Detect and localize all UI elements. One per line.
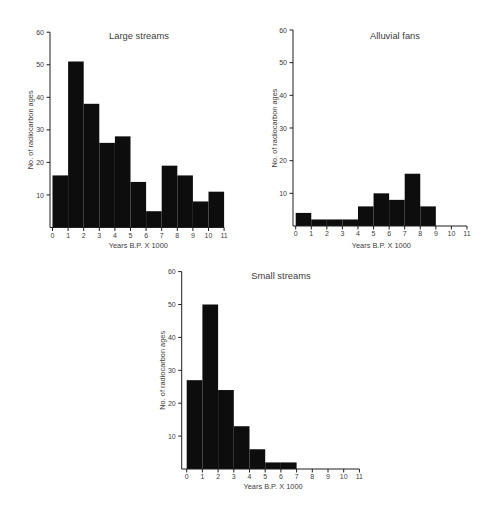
- histogram-bar: [405, 174, 421, 226]
- y-tick-label: 60: [168, 268, 176, 275]
- x-tick-label: 8: [310, 473, 314, 480]
- histogram-bar: [374, 193, 390, 226]
- histogram-bar: [265, 462, 281, 469]
- x-tick-label: 8: [175, 232, 179, 239]
- y-tick-label: 10: [36, 192, 44, 199]
- y-tick-label: 30: [279, 125, 287, 132]
- y-tick-label: 20: [279, 157, 287, 164]
- x-tick-label: 7: [403, 230, 407, 237]
- histogram-bar: [342, 219, 358, 226]
- y-axis-label: No. of radiocarbon ages: [158, 331, 167, 410]
- histogram-bar: [68, 62, 84, 228]
- x-tick-label: 10: [340, 473, 348, 480]
- chart-title: Alluvial fans: [370, 30, 420, 41]
- x-tick-label: 3: [340, 230, 344, 237]
- histogram-bar: [131, 182, 147, 228]
- x-tick-label: 4: [113, 232, 117, 239]
- x-tick-label: 2: [82, 232, 86, 239]
- y-tick-label: 60: [279, 27, 287, 34]
- histogram-bar: [162, 166, 178, 228]
- y-axis-label: No. of radiocarbon ages: [270, 88, 279, 167]
- chart-title: Small streams: [251, 270, 311, 281]
- histogram-bar: [187, 380, 203, 469]
- alluvial-fans-chart: 10203040506001234567891011Alluvial fansY…: [243, 0, 486, 253]
- x-tick-label: 11: [356, 473, 363, 480]
- y-tick-label: 40: [168, 334, 176, 341]
- histogram-bar: [177, 175, 193, 227]
- x-tick-label: 11: [463, 230, 470, 237]
- x-tick-label: 4: [356, 230, 360, 237]
- histogram-bar: [218, 390, 234, 469]
- x-tick-label: 0: [185, 473, 189, 480]
- x-tick-label: 9: [326, 473, 330, 480]
- x-axis-label: Years B.P. X 1000: [109, 241, 168, 250]
- x-tick-label: 11: [220, 232, 227, 239]
- y-tick-label: 50: [36, 61, 44, 68]
- histogram-bar: [84, 104, 100, 228]
- x-tick-label: 4: [248, 473, 252, 480]
- large-streams-chart: 10203040506001234567891011Large streamsY…: [0, 0, 243, 253]
- histogram-bar: [250, 449, 266, 469]
- x-tick-label: 3: [97, 232, 101, 239]
- y-tick-label: 10: [279, 190, 287, 197]
- x-tick-label: 0: [51, 232, 55, 239]
- small-streams-chart: 10203040506001234567891011Small streamsY…: [120, 253, 363, 506]
- histogram-bar: [53, 175, 69, 227]
- x-tick-label: 6: [279, 473, 283, 480]
- x-tick-label: 9: [434, 230, 438, 237]
- histogram-bar: [281, 462, 297, 469]
- x-axis-label: Years B.P. X 1000: [243, 482, 302, 491]
- y-tick-label: 50: [279, 59, 287, 66]
- x-tick-label: 8: [418, 230, 422, 237]
- x-tick-label: 6: [144, 232, 148, 239]
- x-tick-label: 9: [191, 232, 195, 239]
- x-tick-label: 1: [200, 473, 204, 480]
- y-tick-label: 60: [36, 29, 44, 36]
- chart-title: Large streams: [109, 30, 169, 41]
- histogram-bar: [389, 200, 405, 226]
- x-tick-label: 3: [232, 473, 236, 480]
- x-axis-label: Years B.P. X 1000: [352, 241, 411, 250]
- histogram-bar: [99, 143, 115, 228]
- x-tick-label: 10: [448, 230, 456, 237]
- histogram-bar: [358, 206, 374, 226]
- histogram-bar: [234, 426, 250, 469]
- histogram-bar: [311, 219, 327, 226]
- x-tick-label: 5: [372, 230, 376, 237]
- y-tick-label: 40: [279, 92, 287, 99]
- y-tick-label: 30: [168, 367, 176, 374]
- y-tick-label: 40: [36, 94, 44, 101]
- x-tick-label: 0: [294, 230, 298, 237]
- y-tick-label: 20: [168, 400, 176, 407]
- x-tick-label: 1: [66, 232, 70, 239]
- y-tick-label: 50: [168, 301, 176, 308]
- radiocarbon-histograms-figure: 10203040506001234567891011Large streamsY…: [0, 0, 486, 506]
- histogram-bar: [420, 206, 436, 226]
- histogram-bar: [296, 213, 312, 226]
- histogram-bar: [115, 136, 131, 227]
- x-tick-label: 6: [387, 230, 391, 237]
- y-tick-label: 30: [36, 126, 44, 133]
- x-tick-label: 7: [295, 473, 299, 480]
- histogram-bar: [209, 192, 225, 228]
- x-tick-label: 2: [325, 230, 329, 237]
- histogram-bar: [193, 201, 209, 227]
- x-tick-label: 2: [216, 473, 220, 480]
- histogram-bar: [202, 305, 218, 470]
- histogram-bar: [327, 219, 343, 226]
- x-tick-label: 5: [263, 473, 267, 480]
- x-tick-label: 1: [309, 230, 313, 237]
- x-tick-label: 10: [205, 232, 213, 239]
- histogram-bar: [146, 211, 162, 227]
- x-tick-label: 7: [160, 232, 164, 239]
- y-axis-label: No. of radiocarbon ages: [26, 90, 35, 169]
- y-tick-label: 20: [36, 159, 44, 166]
- x-tick-label: 5: [129, 232, 133, 239]
- y-tick-label: 10: [168, 433, 176, 440]
